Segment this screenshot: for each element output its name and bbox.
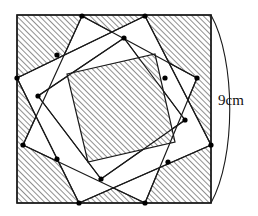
- dot-mid-upper-right: [162, 75, 167, 80]
- dot-top-left-edge: [79, 13, 84, 18]
- dot-right-upper-edge: [194, 75, 199, 80]
- dot-mid-upper-left: [54, 52, 59, 57]
- diagram-canvas: 9cm: [0, 0, 258, 216]
- dot-left-upper-edge: [14, 75, 19, 80]
- dot-left-lower-edge: [20, 142, 25, 147]
- dot-bottom-left-edge: [76, 200, 81, 205]
- dot-bottom-right-edge: [142, 200, 147, 205]
- dot-inner-bottom: [98, 176, 103, 181]
- dot-top-right-edge: [142, 13, 147, 18]
- dot-right-lower-edge: [208, 142, 213, 147]
- dot-mid-lower-left: [54, 156, 59, 161]
- dot-inner-right: [182, 117, 187, 122]
- dimension-arc: [211, 15, 230, 203]
- dimension-label: 9cm: [218, 92, 244, 109]
- dot-inner-left: [35, 93, 40, 98]
- dot-mid-lower-right: [165, 159, 170, 164]
- dot-inner-top: [121, 35, 126, 40]
